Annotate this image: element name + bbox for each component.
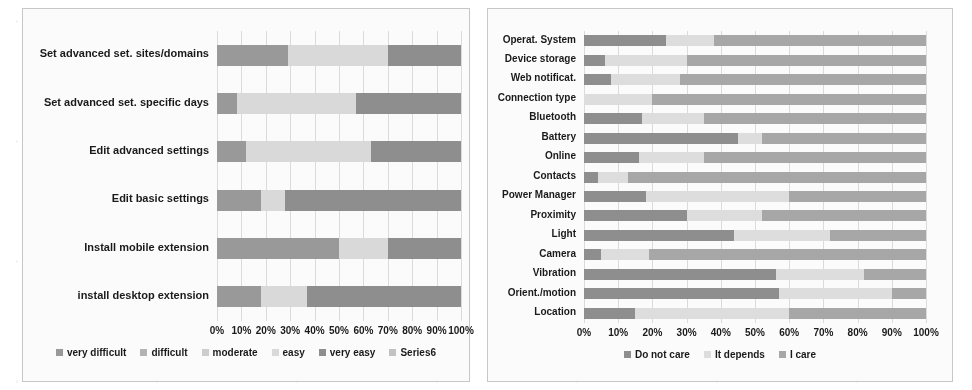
bar-segment bbox=[388, 45, 461, 66]
bar-segment bbox=[285, 190, 461, 211]
bar-segment bbox=[611, 74, 679, 85]
bar-segment bbox=[779, 288, 892, 299]
left-chart-panel: 0%10%20%30%40%50%60%70%80%90%100% very d… bbox=[22, 8, 470, 382]
category-label: Connection type bbox=[490, 93, 576, 103]
legend-item[interactable]: moderate bbox=[202, 347, 258, 358]
bar-left-row-0 bbox=[217, 45, 461, 66]
category-label: Edit advanced settings bbox=[25, 145, 209, 156]
gridline bbox=[339, 31, 340, 321]
bar-segment bbox=[217, 45, 288, 66]
legend-label: Series6 bbox=[400, 347, 436, 358]
category-label: Proximity bbox=[490, 210, 576, 220]
legend-label: difficult bbox=[151, 347, 187, 358]
category-label: Device storage bbox=[490, 54, 576, 64]
bar-right-row-3 bbox=[584, 94, 926, 105]
bar-segment bbox=[776, 269, 865, 280]
bar-segment bbox=[601, 249, 649, 260]
bar-segment bbox=[584, 249, 601, 260]
legend-item[interactable]: difficult bbox=[140, 347, 187, 358]
bar-segment bbox=[704, 152, 926, 163]
x-tick-label: 70% bbox=[378, 325, 398, 336]
legend-swatch-icon bbox=[56, 349, 63, 356]
legend-item[interactable]: Series6 bbox=[389, 347, 436, 358]
bar-segment bbox=[789, 191, 926, 202]
bar-right-row-2 bbox=[584, 74, 926, 85]
bar-segment bbox=[789, 308, 926, 319]
bar-right-row-1 bbox=[584, 55, 926, 66]
bar-segment bbox=[680, 74, 926, 85]
bar-segment bbox=[642, 113, 704, 124]
bar-right-row-11 bbox=[584, 249, 926, 260]
bar-segment bbox=[584, 230, 734, 241]
bar-segment bbox=[646, 191, 790, 202]
x-tick-label: 50% bbox=[745, 327, 765, 338]
legend-label: easy bbox=[283, 347, 305, 358]
bar-segment bbox=[864, 269, 926, 280]
x-tick-label: 20% bbox=[642, 327, 662, 338]
category-label: Orient./motion bbox=[490, 288, 576, 298]
legend-item[interactable]: very difficult bbox=[56, 347, 126, 358]
legend-item[interactable]: easy bbox=[272, 347, 305, 358]
gridline bbox=[388, 31, 389, 321]
category-label: Contacts bbox=[490, 171, 576, 181]
bar-segment bbox=[371, 141, 461, 162]
bar-segment bbox=[584, 55, 605, 66]
x-tick-label: 30% bbox=[677, 327, 697, 338]
bar-left-row-1 bbox=[217, 93, 461, 114]
bar-segment bbox=[584, 35, 666, 46]
bar-segment bbox=[584, 191, 646, 202]
category-label: install desktop extension bbox=[25, 290, 209, 301]
gridline bbox=[290, 31, 291, 321]
bar-segment bbox=[628, 172, 926, 183]
x-tick-label: 80% bbox=[402, 325, 422, 336]
x-tick-label: 70% bbox=[813, 327, 833, 338]
bar-segment bbox=[584, 74, 611, 85]
x-tick-label: 0% bbox=[210, 325, 224, 336]
x-tick-label: 80% bbox=[848, 327, 868, 338]
bar-right-row-12 bbox=[584, 269, 926, 280]
bar-segment bbox=[584, 172, 598, 183]
bar-right-row-5 bbox=[584, 133, 926, 144]
x-tick-label: 30% bbox=[280, 325, 300, 336]
legend-item[interactable]: It depends bbox=[704, 349, 765, 360]
bar-segment bbox=[217, 238, 339, 259]
bar-segment bbox=[635, 308, 789, 319]
x-tick-label: 20% bbox=[256, 325, 276, 336]
category-label: Install mobile extension bbox=[25, 242, 209, 253]
bar-right-row-14 bbox=[584, 308, 926, 319]
bar-segment bbox=[584, 152, 639, 163]
x-tick-label: 0% bbox=[577, 327, 591, 338]
legend-item[interactable]: Do not care bbox=[624, 349, 690, 360]
legend-item[interactable]: very easy bbox=[319, 347, 376, 358]
bar-segment bbox=[714, 35, 926, 46]
category-label: Power Manager bbox=[490, 190, 576, 200]
bar-left-row-3 bbox=[217, 190, 461, 211]
legend-swatch-icon bbox=[319, 349, 326, 356]
bar-segment bbox=[649, 249, 926, 260]
right-legend: Do not careIt dependsI care bbox=[488, 349, 952, 360]
category-label: Vibration bbox=[490, 268, 576, 278]
right-x-axis-ticks: 0%10%20%30%40%50%60%70%80%90%100% bbox=[584, 327, 926, 341]
legend-swatch-icon bbox=[624, 351, 631, 358]
bar-segment bbox=[762, 210, 926, 221]
x-tick-label: 10% bbox=[608, 327, 628, 338]
bar-segment bbox=[339, 238, 388, 259]
bar-segment bbox=[246, 141, 370, 162]
bar-right-row-7 bbox=[584, 172, 926, 183]
category-label: Edit basic settings bbox=[25, 193, 209, 204]
bar-segment bbox=[652, 94, 926, 105]
left-gridlines bbox=[217, 31, 461, 321]
bar-segment bbox=[356, 93, 461, 114]
legend-item[interactable]: I care bbox=[779, 349, 816, 360]
legend-swatch-icon bbox=[202, 349, 209, 356]
bar-segment bbox=[738, 133, 762, 144]
x-tick-label: 40% bbox=[305, 325, 325, 336]
legend-swatch-icon bbox=[779, 351, 786, 358]
x-tick-label: 60% bbox=[353, 325, 373, 336]
category-label: Camera bbox=[490, 249, 576, 259]
category-label: Light bbox=[490, 229, 576, 239]
bar-segment bbox=[666, 35, 714, 46]
bar-segment bbox=[217, 190, 261, 211]
bar-segment bbox=[217, 141, 246, 162]
category-label: Set advanced set. sites/domains bbox=[25, 48, 209, 59]
